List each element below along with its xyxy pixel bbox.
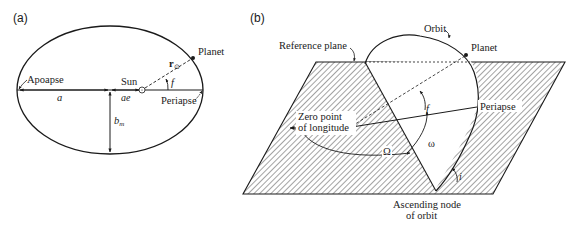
panel-b: (b) Orbit Planet Refere: [243, 11, 565, 221]
periapse-label: Periapse: [480, 101, 516, 112]
ascending-node-label-line2: of orbit: [406, 210, 437, 221]
apoapse-leader: [19, 80, 27, 89]
focal-offset-label: ae: [121, 92, 131, 103]
apoapse-label: Apoapse: [27, 74, 64, 85]
true-anomaly-label: f: [171, 77, 176, 88]
panel-a: (a) Apoapse Sun Periapse Planet a ae bm …: [13, 11, 224, 154]
reference-plane-leader: [350, 48, 355, 61]
radius-vector-label: r⊙: [169, 58, 180, 71]
inclination-label: i: [459, 171, 462, 182]
true-anomaly-arc: [166, 79, 168, 90]
reference-plane-label: Reference plane: [279, 40, 347, 51]
planet-label: Planet: [198, 46, 224, 57]
planet-icon: [464, 53, 468, 57]
panel-b-label: (b): [250, 11, 265, 25]
ascending-node-label-line1: Ascending node: [393, 199, 461, 210]
planet-icon: [191, 56, 195, 60]
orbit-label: Orbit: [424, 23, 446, 34]
semi-major-label: a: [57, 92, 62, 103]
zero-point-label-line1: Zero point: [298, 111, 342, 122]
long-asc-node-label: Ω: [383, 146, 391, 157]
sun-dot-icon: [141, 89, 142, 90]
planet-label: Planet: [471, 42, 497, 53]
orbital-elements-diagram: (a) Apoapse Sun Periapse Planet a ae bm …: [0, 0, 578, 225]
zero-point-label-line2: of longitude: [298, 122, 349, 133]
semi-minor-label: bm: [114, 115, 124, 128]
periapse-label: Periapse: [161, 95, 197, 106]
sun-label: Sun: [121, 76, 138, 87]
arg-periapsis-label: ω: [428, 138, 435, 149]
panel-a-label: (a): [13, 11, 28, 25]
